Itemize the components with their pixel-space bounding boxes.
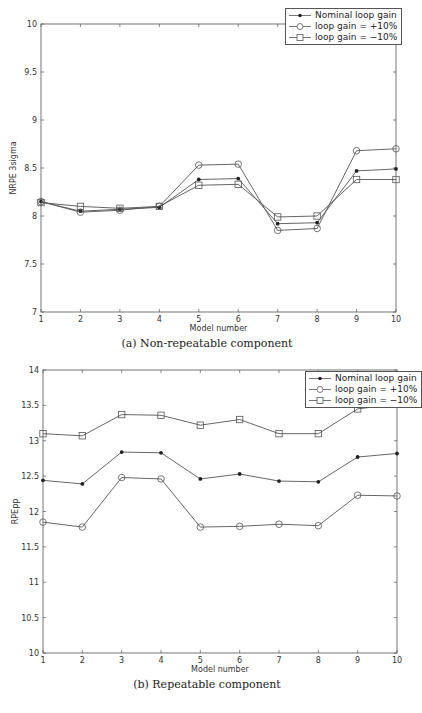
- chart-b-plot: 123456789101010.51111.51212.51313.514Mod…: [0, 356, 414, 713]
- x-tick-label: 3: [117, 315, 122, 324]
- chart-b-legend: Nominal loop gain loop gain = +10% loop …: [305, 371, 422, 408]
- y-tick-label: 9.5: [24, 68, 37, 77]
- series-asterisk: [41, 450, 399, 486]
- legend-item-nominal: Nominal loop gain: [289, 10, 397, 21]
- x-tick-label: 7: [275, 315, 280, 324]
- legend-item-nominal: Nominal loop gain: [309, 373, 417, 384]
- y-tick-label: 10.5: [21, 614, 39, 623]
- x-tick-label: 1: [40, 656, 45, 665]
- x-tick-label: 9: [355, 656, 360, 665]
- x-tick-label: 10: [392, 656, 402, 665]
- y-tick-label: 14: [29, 366, 39, 375]
- y-tick-label: 11.5: [21, 543, 39, 552]
- figure-a-nonrepeatable: 1234567891077.588.599.510Model numberNRP…: [0, 0, 414, 356]
- y-tick-label: 12.5: [21, 472, 39, 481]
- x-tick-label: 9: [354, 315, 359, 324]
- x-axis-label: Model number: [191, 665, 249, 674]
- x-tick-label: 2: [78, 315, 83, 324]
- figure-b-repeatable: 123456789101010.51111.51212.51313.514Mod…: [0, 356, 414, 713]
- y-tick-label: 10: [27, 20, 37, 29]
- plot-frame: [41, 24, 396, 312]
- x-tick-label: 10: [391, 315, 401, 324]
- y-tick-label: 11: [29, 578, 39, 587]
- legend-item-plus10: loop gain = +10%: [309, 384, 417, 395]
- y-axis-label: RPEpp: [11, 499, 20, 525]
- circle-marker-icon: [289, 22, 311, 31]
- asterisk-marker-icon: [289, 11, 311, 20]
- square-marker-icon: [309, 396, 331, 405]
- x-tick-label: 5: [198, 656, 203, 665]
- x-tick-label: 6: [237, 656, 242, 665]
- chart-a-legend: Nominal loop gain loop gain = +10% loop …: [285, 8, 402, 45]
- x-tick-label: 6: [236, 315, 241, 324]
- asterisk-marker-icon: [309, 374, 331, 383]
- x-tick-label: 4: [158, 656, 163, 665]
- chart-a-caption: (a) Non-repeatable component: [0, 337, 414, 350]
- y-tick-label: 8.5: [24, 164, 37, 173]
- y-tick-label: 7.5: [24, 260, 37, 269]
- y-tick-label: 10: [29, 649, 39, 658]
- x-axis-label: Model number: [190, 324, 248, 333]
- x-tick-label: 4: [157, 315, 162, 324]
- series-circle: [40, 474, 401, 530]
- y-tick-label: 12: [29, 508, 39, 517]
- y-tick-label: 13: [29, 437, 39, 446]
- y-axis-label: NRPE 3sigma: [9, 141, 18, 194]
- circle-marker-icon: [309, 385, 331, 394]
- legend-item-minus10: loop gain = −10%: [289, 32, 397, 43]
- chart-b-caption: (b) Repeatable component: [0, 678, 414, 691]
- chart-a-plot: 1234567891077.588.599.510Model numberNRP…: [0, 0, 414, 356]
- x-tick-label: 2: [80, 656, 85, 665]
- x-tick-label: 7: [276, 656, 281, 665]
- y-tick-label: 13.5: [21, 401, 39, 410]
- square-marker-icon: [289, 33, 311, 42]
- legend-item-minus10: loop gain = −10%: [309, 395, 417, 406]
- x-tick-label: 8: [316, 656, 321, 665]
- y-tick-label: 7: [32, 308, 37, 317]
- x-tick-label: 1: [38, 315, 43, 324]
- x-tick-label: 3: [119, 656, 124, 665]
- y-tick-label: 8: [32, 212, 37, 221]
- series-square: [38, 176, 399, 220]
- y-tick-label: 9: [32, 116, 37, 125]
- plot-frame: [43, 370, 397, 653]
- legend-item-plus10: loop gain = +10%: [289, 21, 397, 32]
- x-tick-label: 5: [196, 315, 201, 324]
- x-tick-label: 8: [315, 315, 320, 324]
